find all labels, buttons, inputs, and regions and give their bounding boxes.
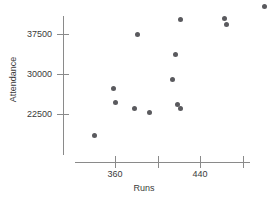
x-tick-mark <box>158 156 159 168</box>
y-tick-mark <box>57 34 69 35</box>
y-tick-mark <box>57 74 69 75</box>
data-point <box>111 86 116 91</box>
x-tick-label: 360 <box>95 170 135 179</box>
data-point <box>113 100 118 105</box>
x-axis-line <box>75 162 250 163</box>
data-point <box>92 133 97 138</box>
x-tick-mark <box>200 156 201 168</box>
y-tick-label: 37500 <box>0 30 52 39</box>
data-point <box>132 106 137 111</box>
data-point <box>178 17 183 22</box>
scatter-plot: 375003000022500 360440 Attendance Runs <box>0 0 268 200</box>
x-axis-title: Runs <box>114 184 174 193</box>
y-axis-line <box>63 16 64 155</box>
y-axis-title: Attendance <box>9 50 18 110</box>
y-tick-mark <box>57 114 69 115</box>
x-tick-mark <box>243 156 244 168</box>
data-point <box>222 16 227 21</box>
data-point <box>224 22 229 27</box>
y-tick-label: 22500 <box>0 110 52 119</box>
x-tick-label: 440 <box>180 170 220 179</box>
data-point <box>135 32 140 37</box>
data-point <box>262 4 267 9</box>
data-point <box>170 77 175 82</box>
x-tick-mark <box>115 156 116 168</box>
data-point <box>178 106 183 111</box>
data-point <box>173 52 178 57</box>
data-point <box>147 110 152 115</box>
